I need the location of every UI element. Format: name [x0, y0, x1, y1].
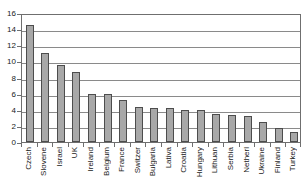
bar	[135, 107, 143, 142]
x-tick-label: Lithuan	[211, 147, 219, 173]
y-tick-label: 16	[7, 10, 16, 18]
x-tick-label: Hungary	[196, 147, 204, 177]
y-axis: 0246810121416	[0, 0, 21, 160]
x-tick-label: France	[118, 147, 126, 172]
x-tick-label: Finland	[274, 147, 282, 173]
x-tick-label: Czech	[25, 147, 33, 170]
bar	[88, 94, 96, 142]
bar	[104, 94, 112, 142]
bar	[259, 122, 267, 142]
y-tick-label: 10	[7, 58, 16, 66]
y-tick-label: 12	[7, 42, 16, 50]
bar	[41, 53, 49, 142]
x-tick-label: Ukraine	[258, 147, 266, 175]
bar	[166, 108, 174, 142]
bar	[228, 115, 236, 142]
x-axis-labels: CzechSloveneIsraelUKIrelandBelgiumFrance…	[21, 147, 301, 195]
bar	[212, 114, 220, 142]
bar	[290, 132, 298, 142]
x-tick-label: Israel	[56, 147, 64, 167]
bar	[119, 100, 127, 142]
bar	[26, 25, 34, 142]
x-tick-label: Netherl	[243, 147, 251, 173]
x-tick-label: UK	[71, 147, 79, 158]
plot-area	[21, 14, 301, 143]
y-tick-label: 0	[12, 139, 16, 147]
bar-chart: 0246810121416 CzechSloveneIsraelUKIrelan…	[0, 0, 307, 195]
x-tick-label: Ireland	[87, 147, 95, 171]
y-tick-label: 6	[12, 91, 16, 99]
y-tick-label: 8	[12, 75, 16, 83]
bar	[244, 116, 252, 142]
x-tick-label: Lativa	[165, 147, 173, 168]
x-tick-label: Slovene	[40, 147, 48, 176]
x-tick-label: Belgium	[103, 147, 111, 176]
bars-layer	[22, 15, 300, 142]
bar	[72, 72, 80, 142]
y-tick-label: 4	[12, 107, 16, 115]
x-tick-label: Bulgaria	[149, 147, 157, 176]
x-tick-label: Turkey	[289, 147, 297, 171]
x-tick-label: Serbia	[227, 147, 235, 170]
x-tick-label: Croatia	[180, 147, 188, 173]
y-tick-label: 14	[7, 26, 16, 34]
bar	[275, 128, 283, 143]
y-tick-label: 2	[12, 123, 16, 131]
bar	[57, 65, 65, 142]
x-tick-label: Switzer	[134, 147, 142, 173]
bar	[181, 110, 189, 142]
bar	[197, 110, 205, 142]
bar	[150, 108, 158, 142]
